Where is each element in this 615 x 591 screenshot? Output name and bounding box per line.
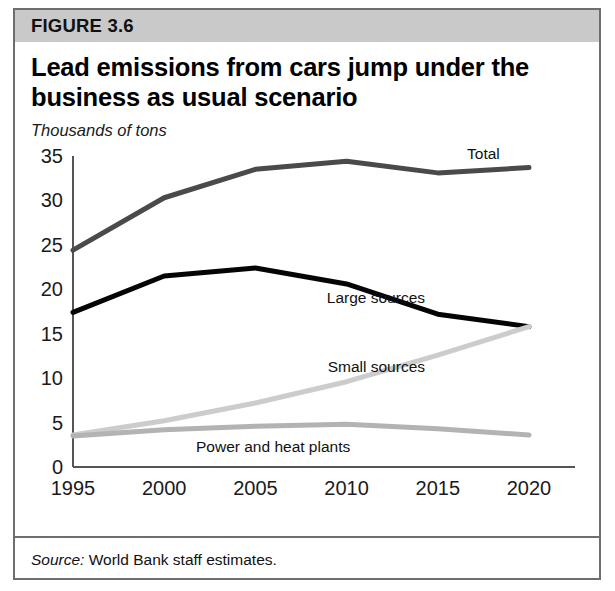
y-tick-label: 20 bbox=[41, 278, 63, 300]
y-tick-label: 35 bbox=[41, 145, 63, 167]
y-axis: 05101520253035 bbox=[41, 145, 73, 478]
y-tick-label: 25 bbox=[41, 234, 63, 256]
y-tick-label: 15 bbox=[41, 323, 63, 345]
y-tick-label: 10 bbox=[41, 367, 63, 389]
y-tick-label: 30 bbox=[41, 190, 63, 212]
figure-title: Lead emissions from cars jump under the … bbox=[15, 42, 599, 112]
x-tick-label: 2020 bbox=[507, 477, 552, 499]
x-tick-label: 2000 bbox=[142, 477, 187, 499]
y-axis-tick-labels: 05101520253035 bbox=[41, 145, 63, 478]
data-series-lines bbox=[73, 161, 529, 436]
figure-source-note: Source: World Bank staff estimates. bbox=[31, 551, 277, 569]
x-tick-label: 2015 bbox=[416, 477, 461, 499]
series-label: Large sources bbox=[327, 289, 425, 306]
x-tick-label: 2010 bbox=[324, 477, 369, 499]
series-label: Power and heat plants bbox=[196, 438, 350, 455]
y-tick-label: 5 bbox=[52, 412, 63, 434]
x-axis: 199520002005201020152020 bbox=[51, 467, 575, 499]
figure-card: FIGURE 3.6 Lead emissions from cars jump… bbox=[13, 8, 601, 580]
y-tick-label: 0 bbox=[52, 456, 63, 478]
series-line bbox=[73, 161, 529, 250]
figure-number: FIGURE 3.6 bbox=[31, 15, 134, 37]
x-tick-label: 1995 bbox=[51, 477, 96, 499]
x-tick-label: 2005 bbox=[233, 477, 278, 499]
figure-axis-units-label: Thousands of tons bbox=[15, 112, 599, 140]
line-chart-svg: 05101520253035 199520002005201020152020 … bbox=[15, 144, 603, 524]
figure-header-band: FIGURE 3.6 bbox=[15, 10, 599, 42]
series-line bbox=[73, 268, 529, 327]
source-label: Source: bbox=[31, 551, 84, 568]
footer-divider bbox=[15, 536, 599, 538]
series-label: Total bbox=[467, 145, 500, 162]
series-label: Small sources bbox=[328, 359, 426, 376]
series-line bbox=[73, 327, 529, 435]
source-text: World Bank staff estimates. bbox=[89, 551, 277, 568]
chart-plot-area: 05101520253035 199520002005201020152020 … bbox=[15, 144, 603, 524]
x-axis-tick-labels: 199520002005201020152020 bbox=[51, 477, 552, 499]
